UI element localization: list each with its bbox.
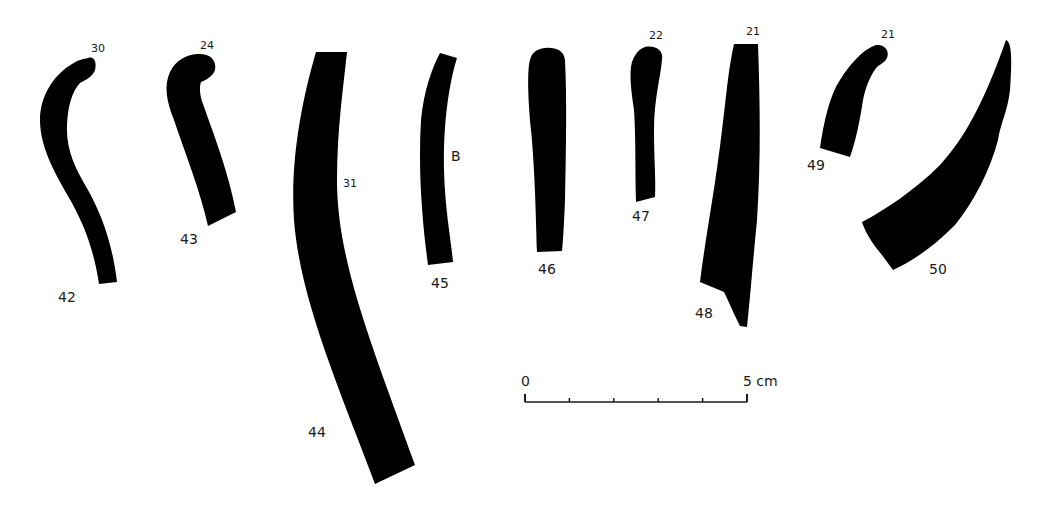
fragment-44-profile xyxy=(293,52,415,484)
fragment-47-number: 47 xyxy=(632,208,650,224)
fragment-49-profile xyxy=(820,45,888,157)
fragment-42-profile xyxy=(40,58,117,284)
fragment-48: 48 21 xyxy=(695,25,760,327)
fragment-49-note: 21 xyxy=(881,28,895,41)
fragment-50-number: 50 xyxy=(929,261,947,277)
fragment-47-note: 22 xyxy=(649,29,663,42)
fragment-50: 50 xyxy=(862,40,1011,277)
fragment-46-number: 46 xyxy=(538,261,556,277)
fragment-49: 49 21 xyxy=(807,28,895,173)
fragment-43-number: 43 xyxy=(180,231,198,247)
fragment-47: 47 22 xyxy=(631,29,663,224)
fragment-45-number: 45 xyxy=(431,275,449,291)
scale-bar-ticks xyxy=(525,394,747,402)
scale-bar-start-label: 0 xyxy=(521,373,530,389)
fragment-47-profile xyxy=(631,47,663,202)
fragment-43-note: 24 xyxy=(200,39,214,52)
fragment-49-number: 49 xyxy=(807,157,825,173)
fragment-46-profile xyxy=(528,48,566,252)
fragment-42: 42 30 xyxy=(40,42,117,305)
fragment-48-note: 21 xyxy=(746,25,760,38)
fragment-45-note: B xyxy=(451,148,461,164)
fragment-44: 44 31 xyxy=(293,52,415,484)
fragment-48-profile xyxy=(700,44,760,327)
fragment-50-profile xyxy=(862,40,1011,270)
fragment-44-number: 44 xyxy=(308,424,326,440)
fragment-43: 43 24 xyxy=(167,39,236,247)
fragment-48-number: 48 xyxy=(695,305,713,321)
scale-bar-end-label: 5 cm xyxy=(743,373,778,389)
fragment-46: 46 xyxy=(528,48,566,277)
scale-bar: 0 5 cm xyxy=(521,373,778,402)
fragment-44-note: 31 xyxy=(343,177,357,190)
fragment-45: 45 B xyxy=(420,53,461,291)
fragment-42-note: 30 xyxy=(91,42,105,55)
fragment-43-profile xyxy=(167,54,236,226)
fragment-42-number: 42 xyxy=(58,289,76,305)
artifact-plate: 42 30 43 24 44 31 45 B 46 47 22 48 21 49 xyxy=(0,0,1044,506)
